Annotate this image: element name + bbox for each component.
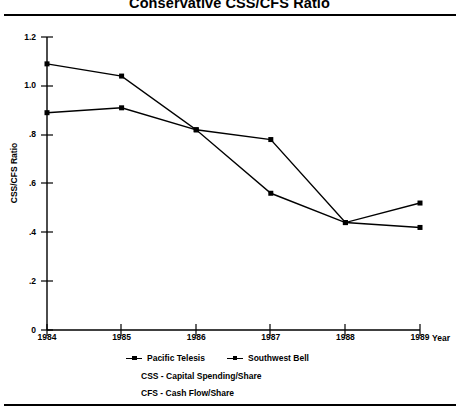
x-tick-label: 1989 (400, 333, 440, 342)
plot-area (0, 0, 459, 411)
data-point-marker (194, 127, 199, 132)
legend-label: Pacific Telesis (147, 353, 205, 363)
data-point-marker (268, 137, 273, 142)
y-tick-label: .4 (8, 228, 36, 237)
axes (47, 37, 420, 330)
y-tick-label: .6 (8, 179, 36, 188)
y-tick-label: .2 (8, 277, 36, 286)
chart-legend: Pacific Telesis Southwest Bell (126, 353, 309, 363)
data-point-marker (45, 61, 50, 66)
footnote-css: CSS - Capital Spending/Share (141, 371, 261, 381)
x-tick-label: 1984 (27, 333, 67, 342)
y-tick-label: .8 (8, 130, 36, 139)
legend-label: Southwest Bell (248, 353, 309, 363)
data-point-marker (343, 220, 348, 225)
chart-figure: Conservative CSS/CFS Ratio CSS/CFS Ratio (0, 0, 459, 411)
footnote-cfs: CFS - Cash Flow/Share (141, 388, 234, 398)
x-tick-label: 1988 (325, 333, 365, 342)
data-point-marker (418, 201, 423, 206)
y-axis-title: CSS/CFS Ratio (9, 128, 19, 218)
legend-marker-icon (227, 354, 243, 362)
series-line (47, 64, 420, 223)
data-point-marker (119, 105, 124, 110)
y-tick-label: 1.0 (8, 81, 36, 90)
series-line (47, 108, 420, 228)
data-point-marker (45, 110, 50, 115)
x-tick-label: 1985 (102, 333, 142, 342)
data-series-lines (45, 61, 423, 230)
legend-marker-icon (126, 354, 142, 362)
data-point-marker (268, 191, 273, 196)
data-point-marker (418, 225, 423, 230)
data-point-marker (119, 74, 124, 79)
x-tick-label: 1987 (251, 333, 291, 342)
legend-item-pacific-telesis[interactable]: Pacific Telesis (126, 353, 205, 363)
legend-item-southwest-bell[interactable]: Southwest Bell (227, 353, 309, 363)
y-tick-label: 1.2 (8, 33, 36, 42)
x-tick-label: 1986 (176, 333, 216, 342)
